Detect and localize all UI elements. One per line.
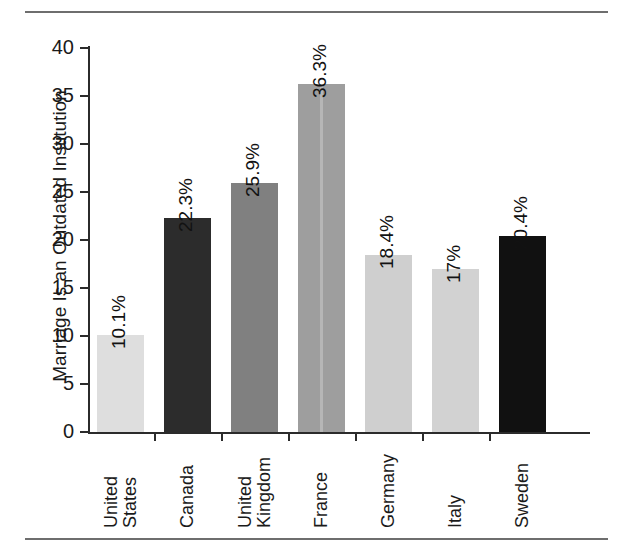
y-axis-tick bbox=[80, 383, 88, 385]
figure-container: Marriage Is an Outdated Institution 0510… bbox=[0, 0, 627, 555]
x-axis-tick-label-line: United bbox=[102, 476, 121, 528]
y-axis-tick bbox=[80, 95, 88, 97]
y-axis-tick bbox=[80, 287, 88, 289]
bar-value-label: 36.3% bbox=[309, 44, 331, 98]
x-axis-tick-label-line: Canada bbox=[178, 465, 197, 528]
y-axis-tick bbox=[80, 239, 88, 241]
bar-chart-plot: Marriage Is an Outdated Institution 0510… bbox=[0, 0, 627, 555]
bar[interactable] bbox=[164, 218, 211, 432]
x-axis-tick-label-line: Germany bbox=[379, 454, 398, 528]
y-axis-tick-label: 20 bbox=[38, 229, 74, 249]
y-axis-tick-label: 15 bbox=[38, 277, 74, 297]
x-axis-tick-label: Germany bbox=[379, 454, 398, 528]
bar-value-label: 20.4% bbox=[510, 196, 532, 250]
bar[interactable] bbox=[298, 84, 345, 432]
x-axis-tick bbox=[355, 432, 357, 441]
x-axis-tick-label-line: France bbox=[312, 472, 331, 528]
x-axis-tick-label-line: Kingdom bbox=[255, 457, 274, 528]
bar[interactable] bbox=[365, 255, 412, 432]
x-axis-tick-label-line: Sweden bbox=[513, 463, 532, 528]
y-axis-tick-label: 5 bbox=[38, 373, 74, 393]
y-axis-tick-label: 35 bbox=[38, 85, 74, 105]
bar[interactable] bbox=[97, 335, 144, 432]
bar-value-label: 10.1% bbox=[108, 295, 130, 349]
x-axis-tick-label: UnitedKingdom bbox=[236, 457, 274, 528]
y-axis-line bbox=[88, 46, 90, 434]
y-axis-tick-label: 10 bbox=[38, 325, 74, 345]
y-axis-tick bbox=[80, 143, 88, 145]
x-axis-tick-label: UnitedStates bbox=[102, 476, 140, 528]
y-axis-tick-label: 0 bbox=[38, 421, 74, 441]
x-axis-tick bbox=[489, 432, 491, 441]
x-axis-tick-label: Italy bbox=[446, 495, 465, 528]
x-axis-tick bbox=[154, 432, 156, 441]
x-axis-tick-label-line: Italy bbox=[446, 495, 465, 528]
y-axis-tick-label: 40 bbox=[38, 37, 74, 57]
bar-value-label: 17% bbox=[443, 245, 465, 283]
x-axis-tick bbox=[422, 432, 424, 441]
bar-value-label: 25.9% bbox=[242, 143, 264, 197]
bar-value-label: 18.4% bbox=[376, 215, 398, 269]
x-axis-tick-label-line: States bbox=[121, 476, 140, 528]
x-axis-tick-label: Canada bbox=[178, 465, 197, 528]
y-axis-tick-label: 30 bbox=[38, 133, 74, 153]
y-axis-tick bbox=[80, 335, 88, 337]
x-axis-tick bbox=[288, 432, 290, 441]
y-axis-tick-label: 25 bbox=[38, 181, 74, 201]
bar[interactable] bbox=[432, 269, 479, 432]
x-axis-line bbox=[88, 432, 590, 434]
y-axis-tick bbox=[80, 191, 88, 193]
y-axis-tick bbox=[80, 431, 88, 433]
bar-value-label: 22.3% bbox=[175, 178, 197, 232]
x-axis-tick bbox=[221, 432, 223, 441]
bar[interactable] bbox=[231, 183, 278, 432]
bar[interactable] bbox=[499, 236, 546, 432]
y-axis-tick bbox=[80, 47, 88, 49]
x-axis-tick-label: France bbox=[312, 472, 331, 528]
x-axis-tick-label: Sweden bbox=[513, 463, 532, 528]
x-axis-tick-label-line: United bbox=[236, 457, 255, 528]
